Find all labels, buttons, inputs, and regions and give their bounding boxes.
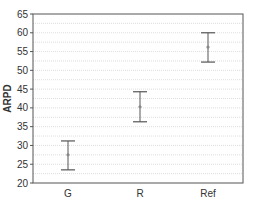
- y-tick-label: 20: [17, 178, 29, 189]
- y-tick-label: 50: [17, 65, 29, 76]
- y-tick-label: 55: [17, 46, 29, 57]
- y-axis-label: ARPD: [2, 84, 13, 112]
- y-tick-label: 45: [17, 84, 29, 95]
- y-tick-label: 30: [17, 140, 29, 151]
- y-tick-label: 25: [17, 159, 29, 170]
- x-category-label: Ref: [200, 188, 216, 199]
- y-tick-label: 60: [17, 27, 29, 38]
- mean-marker: [206, 45, 209, 48]
- y-tick-label: 65: [17, 9, 29, 20]
- x-category-label: R: [136, 188, 143, 199]
- x-category-label: G: [64, 188, 72, 199]
- mean-marker: [138, 105, 141, 108]
- mean-marker: [66, 153, 69, 156]
- y-tick-label: 40: [17, 102, 29, 113]
- y-tick-label: 35: [17, 121, 29, 132]
- errorbar-chart: 20253035404550556065ARPDGRRef: [0, 0, 258, 203]
